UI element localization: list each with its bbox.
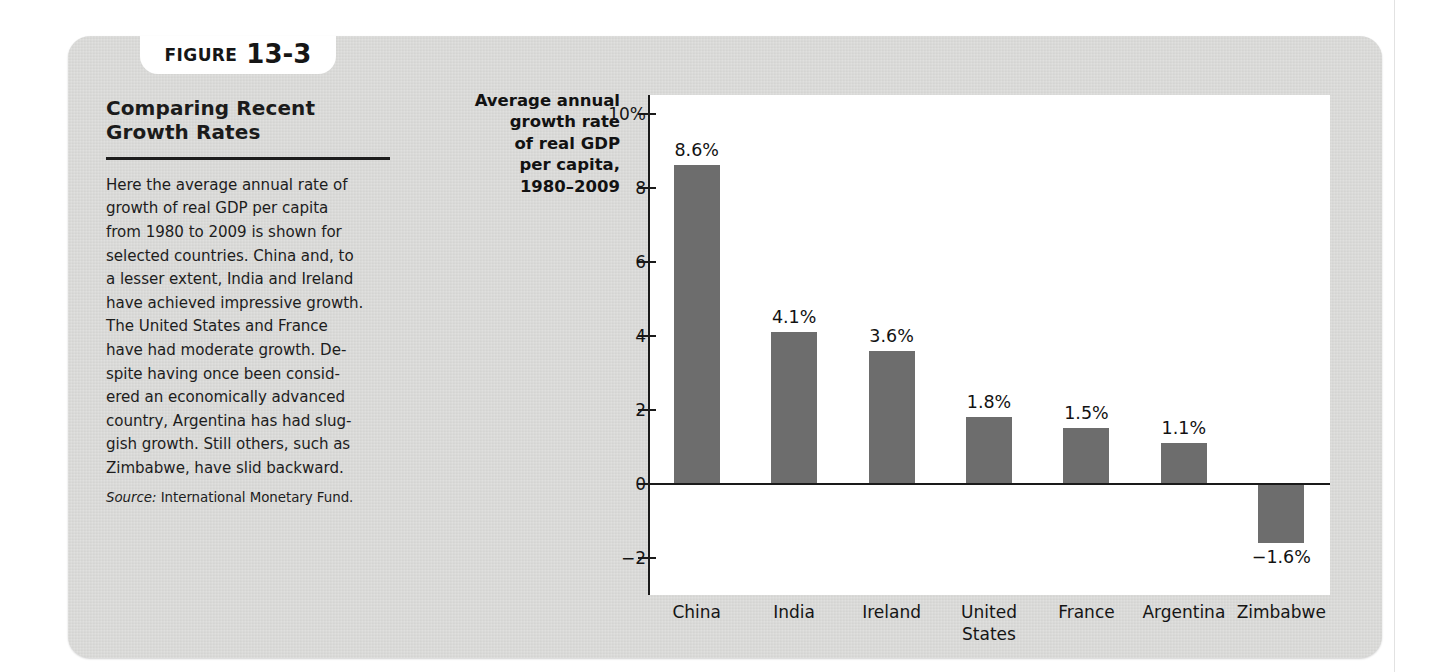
x-axis-label: France xyxy=(1030,602,1142,624)
y-tick-label: 4 xyxy=(566,326,646,346)
bar xyxy=(1063,428,1109,484)
figure-label: FIGURE xyxy=(165,45,238,65)
y-tick-label: 0 xyxy=(566,474,646,494)
bar xyxy=(771,332,817,484)
caption-column: Comparing Recent Growth Rates Here the a… xyxy=(106,96,392,505)
bar-value-label: 1.8% xyxy=(934,392,1044,412)
y-tick-label: 2 xyxy=(566,400,646,420)
caption-divider xyxy=(106,157,390,160)
x-axis-label: Argentina xyxy=(1128,602,1240,624)
chart: Average annual growth rate of real GDP p… xyxy=(420,80,1360,660)
y-tick-label: −2 xyxy=(566,548,646,568)
caption-title: Comparing Recent Growth Rates xyxy=(106,96,392,145)
x-axis-label: China xyxy=(641,602,753,624)
x-axis-labels: ChinaIndiaIrelandUnited StatesFranceArge… xyxy=(648,602,1338,656)
figure-number-tab: FIGURE 13-3 xyxy=(140,36,336,74)
source-label: Source: xyxy=(106,490,156,505)
bar-value-label: 8.6% xyxy=(642,140,752,160)
zero-baseline xyxy=(648,483,1330,485)
bar-value-label: 3.6% xyxy=(837,326,947,346)
bar-value-label: 4.1% xyxy=(739,307,849,327)
source-text: International Monetary Fund. xyxy=(156,490,353,505)
bar-value-label: 1.1% xyxy=(1129,418,1239,438)
bar-value-label: 1.5% xyxy=(1031,403,1141,423)
bar xyxy=(1258,484,1304,543)
y-tick-label: 6 xyxy=(566,252,646,272)
caption-body: Here the average annual rate of growth o… xyxy=(106,174,392,481)
x-axis-label: Zimbabwe xyxy=(1225,602,1337,624)
bar xyxy=(1161,443,1207,484)
x-axis-label: Ireland xyxy=(836,602,948,624)
y-tick-label: 10% xyxy=(566,104,646,124)
bars-layer: 8.6%4.1%3.6%1.8%1.5%1.1%−1.6% xyxy=(648,95,1330,595)
bar xyxy=(674,165,720,484)
x-axis-label: India xyxy=(738,602,850,624)
figure-number: 13-3 xyxy=(246,41,311,67)
y-tick-label: 8 xyxy=(566,178,646,198)
bar-value-label: −1.6% xyxy=(1226,547,1336,567)
figure-root: FIGURE 13-3 Comparing Recent Growth Rate… xyxy=(0,0,1440,672)
caption-source: Source: International Monetary Fund. xyxy=(106,490,392,505)
bar xyxy=(869,351,915,484)
page-edge-rule xyxy=(1394,0,1395,672)
x-axis-label: United States xyxy=(933,602,1045,646)
bar xyxy=(966,417,1012,484)
